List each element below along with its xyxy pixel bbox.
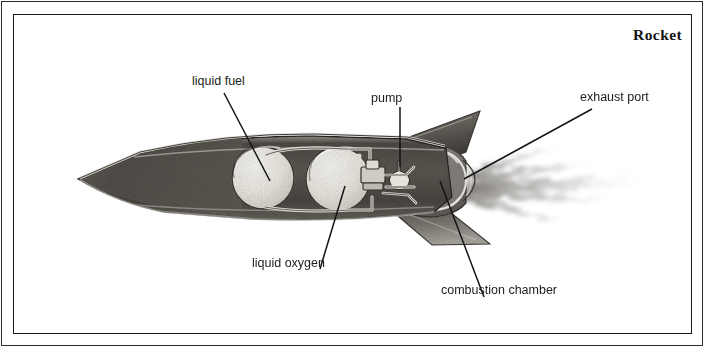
label-liquid-oxygen: liquid oxygen [252,256,325,270]
rocket-diagram-page: Rocket [0,0,706,349]
label-exhaust-port: exhaust port [580,90,649,104]
rocket-illustration [14,15,691,333]
exhaust-plume [460,145,654,221]
label-combustion-chamber: combustion chamber [441,283,557,297]
label-liquid-fuel: liquid fuel [192,74,245,88]
label-pump: pump [371,91,402,105]
